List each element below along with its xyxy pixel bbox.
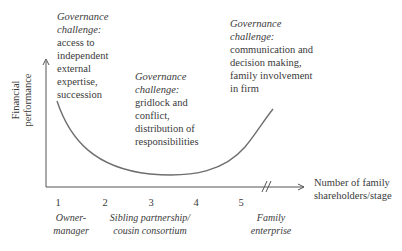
annotation-heading: Governance <box>57 10 108 23</box>
x-tick-5: 5 <box>238 197 243 208</box>
stage-family-enterprise: Family enterprise <box>251 211 292 237</box>
stage-label-line: Family <box>251 211 292 224</box>
y-axis-label-line: performance <box>22 73 34 126</box>
x-tick-1: 1 <box>55 197 60 208</box>
stage-label-line: manager <box>53 224 89 237</box>
annotation-text: distribution of <box>135 122 199 135</box>
y-axis-label-line: Financial <box>10 73 22 126</box>
stage-label-line: enterprise <box>251 224 292 237</box>
stage-label-line: cousin consortium <box>110 224 190 237</box>
annotation-text: responsibilities <box>135 135 199 148</box>
x-axis-label: Number of family shareholders/stage <box>314 176 392 202</box>
x-tick-2: 2 <box>102 197 107 208</box>
annotation-heading: Governance <box>135 70 199 83</box>
stage-owner-manager: Owner- manager <box>53 211 89 237</box>
annotation-sibling-partnership: Governance challenge: gridlock and confl… <box>135 70 199 148</box>
annotation-heading: challenge: <box>135 83 199 96</box>
annotation-text: communication and <box>230 43 313 56</box>
annotation-heading: challenge: <box>230 30 313 43</box>
x-tick-4: 4 <box>193 197 198 208</box>
annotation-text: gridlock and <box>135 96 199 109</box>
x-tick-3: 3 <box>148 197 153 208</box>
annotation-heading: Governance <box>230 17 313 30</box>
stage-sibling-partnership: Sibling partnership/ cousin consortium <box>110 211 190 237</box>
annotation-text: succession <box>57 88 108 101</box>
annotation-owner-manager: Governance challenge: access to independ… <box>57 10 108 101</box>
annotation-text: decision making, <box>230 56 313 69</box>
annotation-family-enterprise: Governance challenge: communication and … <box>230 17 313 95</box>
annotation-text: external <box>57 62 108 75</box>
stage-label-line: Sibling partnership/ <box>110 211 190 224</box>
annotation-text: expertise, <box>57 75 108 88</box>
annotation-text: family involvement <box>230 69 313 82</box>
annotation-text: in firm <box>230 82 313 95</box>
x-axis-label-line: shareholders/stage <box>314 189 392 202</box>
annotation-text: conflict, <box>135 109 199 122</box>
annotation-heading: challenge: <box>57 23 108 36</box>
annotation-text: independent <box>57 49 108 62</box>
stage-label-line: Owner- <box>53 211 89 224</box>
y-axis-label: Financial performance <box>2 70 42 130</box>
annotation-text: access to <box>57 36 108 49</box>
x-axis-label-line: Number of family <box>314 176 392 189</box>
